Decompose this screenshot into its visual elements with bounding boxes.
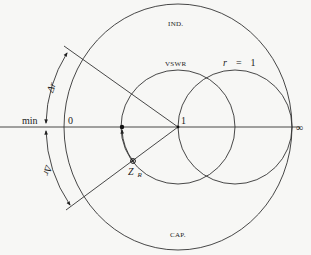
vswr-label: VSWR	[165, 60, 186, 68]
r-symbol: r	[223, 57, 227, 68]
axis-zero-label: 0	[68, 115, 73, 126]
center-point-dot	[177, 126, 180, 129]
capacitive-label: CAP.	[170, 231, 186, 239]
delta-r-upper-label: Δr	[44, 81, 58, 95]
axis-one-label: 1	[181, 115, 186, 126]
load-subscript: R	[137, 171, 143, 179]
r-equals: =	[236, 57, 242, 68]
inductive-label: IND.	[168, 20, 183, 28]
axis-infinity-label: ∞	[296, 122, 303, 133]
min-point-dot	[120, 125, 124, 129]
smith-chart-diagram: IND. CAP. VSWR r = 1 min 0 1 ∞ Δr Δr Z R	[0, 0, 311, 255]
delta-r-lower-label: Δr	[41, 163, 55, 177]
r-circle-label: r = 1	[223, 52, 256, 69]
r-value: 1	[251, 57, 256, 68]
upper-radial-line	[64, 46, 178, 127]
axis-min-label: min	[22, 115, 38, 126]
load-z-symbol: Z	[128, 166, 134, 177]
